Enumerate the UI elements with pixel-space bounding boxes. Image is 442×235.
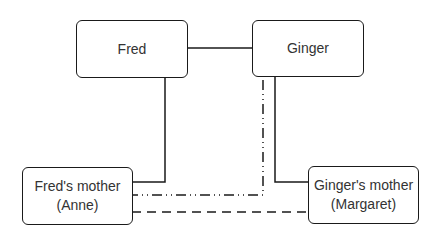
node-ginger-mother-label: Ginger's mother bbox=[314, 176, 413, 195]
node-ginger: Ginger bbox=[252, 20, 364, 77]
node-fred: Fred bbox=[76, 20, 188, 78]
node-fred-label: Fred bbox=[118, 40, 147, 59]
node-fred-mother-label: Fred's mother bbox=[35, 177, 121, 196]
node-ginger-label: Ginger bbox=[287, 39, 329, 58]
edge-fred-fred-mother bbox=[132, 77, 165, 182]
edge-ginger-ginger-mother bbox=[275, 77, 308, 182]
node-fred-mother-name: (Anne) bbox=[56, 196, 98, 215]
node-ginger-mother-name: (Margaret) bbox=[331, 195, 396, 214]
node-fred-mother: Fred's mother (Anne) bbox=[22, 167, 133, 225]
edge-ginger-fred-mother bbox=[132, 80, 263, 195]
node-ginger-mother: Ginger's mother (Margaret) bbox=[308, 166, 419, 224]
